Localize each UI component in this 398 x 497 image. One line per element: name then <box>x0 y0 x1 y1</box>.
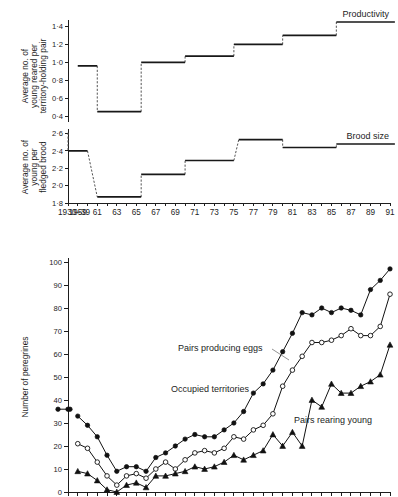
series-line <box>78 269 390 471</box>
x-ticklabel: 75 <box>229 208 239 217</box>
label-pairs-producing-eggs: Pairs producing eggs <box>178 343 263 353</box>
peregrines-y-ticklabel: 60 <box>54 350 62 359</box>
data-point <box>339 333 344 338</box>
data-point <box>280 350 284 354</box>
data-point <box>163 451 167 455</box>
productivity-y-ticklabel: 1·4 <box>52 22 63 31</box>
x-ticklabel: 1959 <box>69 208 88 217</box>
data-point <box>222 428 226 432</box>
x-ticklabel: 89 <box>366 208 376 217</box>
data-point <box>319 306 323 310</box>
brood-axes <box>68 129 390 203</box>
data-point <box>56 407 60 411</box>
brood-step-line <box>68 133 395 197</box>
brood-y-axis-title: fledged brood <box>38 141 48 193</box>
peregrines-y-ticklabel: 50 <box>54 373 62 382</box>
brood-series-label: Brood size <box>346 131 389 141</box>
data-point <box>95 460 100 465</box>
x-ticklabel: 69 <box>171 208 181 217</box>
data-point <box>202 435 206 439</box>
data-point <box>329 310 333 314</box>
data-point <box>280 384 285 389</box>
data-point <box>251 391 255 395</box>
productivity-y-ticklabel: 0·4 <box>52 112 63 121</box>
x-ticklabel: 77 <box>249 208 259 217</box>
panel-brood-size: 2·62·42·22·01·8Average no. ofyoung perfl… <box>20 129 395 217</box>
productivity-step-line <box>78 22 395 112</box>
data-point <box>290 368 295 373</box>
data-point <box>95 435 99 439</box>
data-point <box>192 464 198 469</box>
data-point <box>154 467 159 472</box>
data-point <box>241 409 245 413</box>
label-pairs-rearing-young: Pairs rearing young <box>294 415 372 425</box>
x-ticklabel: 87 <box>346 208 356 217</box>
productivity-y-ticklabel: 0·6 <box>52 94 63 103</box>
data-point <box>85 423 89 427</box>
data-point <box>309 397 315 402</box>
data-point <box>310 313 314 317</box>
x-ticklabel: 71 <box>190 208 200 217</box>
data-point <box>133 480 139 485</box>
data-point <box>339 306 343 310</box>
x-ticklabel: 73 <box>210 208 220 217</box>
data-point <box>85 446 90 451</box>
peregrines-y-axis-title: Number of peregrines <box>20 337 30 418</box>
x-ticklabel: 63 <box>112 208 122 217</box>
data-point <box>124 474 129 479</box>
brood-y-ticklabel: 2·4 <box>52 147 63 156</box>
productivity-y-axis-title: territory-holding pair <box>38 39 48 114</box>
data-point <box>388 292 393 297</box>
data-point <box>358 333 363 338</box>
data-point <box>144 476 149 481</box>
label-occupied-territories: Occupied territories <box>171 384 250 394</box>
data-point <box>358 383 364 388</box>
data-point <box>124 465 128 469</box>
data-point <box>94 478 100 483</box>
peregrines-axes <box>68 258 390 492</box>
data-point <box>300 310 304 314</box>
data-point <box>319 404 325 409</box>
data-point <box>388 267 392 271</box>
data-point <box>359 313 363 317</box>
data-point <box>378 278 382 282</box>
data-point <box>212 451 217 456</box>
data-point <box>329 381 335 386</box>
data-point <box>105 453 109 457</box>
data-point <box>300 354 305 359</box>
data-point <box>221 459 227 464</box>
panel-productivity: 1·41·21·00·80·60·4Average no. ofyoung re… <box>20 9 395 122</box>
data-point <box>250 452 256 457</box>
peregrines-y-ticklabel: 20 <box>54 442 62 451</box>
x-ticklabel: 85 <box>327 208 337 217</box>
data-point <box>231 452 237 457</box>
data-point <box>202 448 207 453</box>
data-point <box>114 483 119 488</box>
data-point <box>271 368 275 372</box>
data-point <box>241 457 247 462</box>
x-ticklabel: 79 <box>268 208 278 217</box>
data-point <box>193 432 197 436</box>
peregrines-y-ticklabel: 80 <box>54 304 62 313</box>
data-point <box>183 437 187 441</box>
peregrines-y-ticklabel: 70 <box>54 327 62 336</box>
data-point <box>349 326 354 331</box>
data-point <box>193 451 198 456</box>
productivity-y-ticklabel: 1·0 <box>52 58 63 67</box>
data-point <box>319 340 324 345</box>
data-point <box>368 379 374 384</box>
peregrines-y-ticklabel: 90 <box>54 281 62 290</box>
data-point <box>173 444 177 448</box>
peregrine-figure: 1·41·21·00·80·60·4Average no. ofyoung re… <box>0 0 398 497</box>
data-point <box>75 441 80 446</box>
data-point <box>232 421 236 425</box>
data-point <box>251 428 256 433</box>
x-ticklabel: 67 <box>151 208 161 217</box>
x-ticklabel: 81 <box>288 208 298 217</box>
data-point <box>260 448 266 453</box>
data-point <box>261 382 265 386</box>
data-point <box>115 469 119 473</box>
x-ticklabel: 65 <box>132 208 142 217</box>
data-point <box>105 474 110 479</box>
brood-y-ticklabel: 1·8 <box>52 199 63 208</box>
